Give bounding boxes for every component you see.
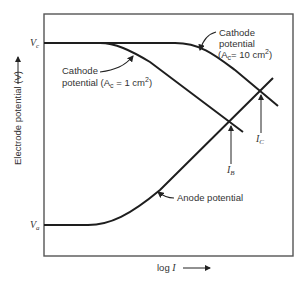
- cathode-10cm2-pointer: [200, 32, 216, 50]
- cathode-10cm2-label-line3: (Ac= 10 cm2): [218, 48, 272, 61]
- cathode-10cm2-label-line2: potential: [219, 38, 255, 49]
- anode-label: Anode potential: [177, 192, 243, 203]
- va-label: Va: [30, 219, 40, 232]
- ib-label: IB: [226, 164, 235, 177]
- vc-label: Vc: [30, 37, 40, 50]
- anode-pointer: [158, 192, 174, 198]
- cathode-10cm2-label: Cathode: [219, 27, 255, 38]
- x-axis-label: log I: [157, 262, 176, 273]
- corrosion-potential-diagram: Vc Va Electrode potential (V) log I Cath…: [0, 0, 302, 286]
- y-axis-label: Electrode potential (V): [12, 71, 23, 165]
- cathode-1cm2-label: Cathode: [62, 65, 98, 76]
- cathode-1cm2-pointer: [100, 56, 133, 72]
- svg-text:Electrode potential (V): Electrode potential (V): [12, 71, 23, 165]
- cathode-1cm2-label-line2: potential (Ac = 1 cm2): [62, 76, 152, 89]
- ic-label: IC: [255, 133, 264, 146]
